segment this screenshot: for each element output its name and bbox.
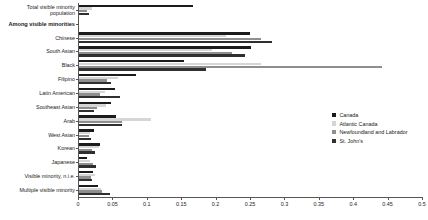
category-row: Multiple visible minority: [78, 183, 422, 197]
x-tick: [216, 197, 217, 200]
x-tick: [181, 197, 182, 200]
bar: [79, 165, 96, 167]
x-tick-label: 0.5: [418, 201, 426, 207]
category-tick: [76, 121, 78, 122]
x-tick: [388, 197, 389, 200]
bar: [79, 41, 272, 43]
x-tick-label: 0: [77, 201, 80, 207]
bar-group: [79, 3, 422, 17]
x-tick-label: 0.25: [245, 201, 256, 207]
category-tick: [76, 24, 78, 25]
legend-item[interactable]: Newfoundland and Labrador: [332, 129, 407, 135]
category-label: Korean: [58, 145, 75, 151]
category-label: South Asian: [46, 48, 75, 54]
grouped-bar-chart: Total visible minority populationAmong v…: [0, 0, 428, 220]
category-tick: [76, 79, 78, 80]
x-tick: [319, 197, 320, 200]
legend-label: St. John's: [339, 138, 363, 144]
bar-group: [79, 169, 422, 183]
x-tick-label: 0.05: [107, 201, 118, 207]
category-label: Among visible minorities: [8, 21, 75, 27]
bar-group: [79, 17, 422, 31]
bar-group: [79, 31, 422, 45]
bar-group: [79, 45, 422, 59]
category-row: Total visible minority population: [78, 3, 422, 17]
category-label: Black: [62, 62, 75, 68]
category-label: Filipino: [58, 76, 75, 82]
x-tick: [422, 197, 423, 200]
category-tick: [76, 10, 78, 11]
x-tick: [353, 197, 354, 200]
category-label: Chinese: [55, 35, 75, 41]
bar: [79, 68, 206, 70]
category-label: Multiple visible minority: [20, 187, 75, 193]
x-tick-label: 0.35: [314, 201, 325, 207]
category-tick: [76, 190, 78, 191]
category-row: Black: [78, 58, 422, 72]
category-tick: [76, 162, 78, 163]
bar-group: [79, 72, 422, 86]
bar: [79, 82, 111, 84]
category-tick: [76, 107, 78, 108]
bar: [79, 5, 193, 7]
category-label: Latin American: [39, 90, 75, 96]
category-label: Southeast Asian: [36, 104, 75, 110]
bar-group: [79, 58, 422, 72]
plot-area: Total visible minority populationAmong v…: [78, 3, 422, 197]
bar-group: [79, 155, 422, 169]
x-tick-label: 0.1: [143, 201, 151, 207]
x-tick: [284, 197, 285, 200]
legend-swatch-icon: [332, 113, 336, 117]
category-tick: [76, 148, 78, 149]
legend-label: Atlantic Canada: [339, 121, 377, 127]
legend-swatch-icon: [332, 130, 336, 134]
bar: [79, 151, 95, 153]
bar: [79, 110, 94, 112]
x-tick-label: 0.3: [281, 201, 289, 207]
chart-legend: CanadaAtlantic CanadaNewfoundland and La…: [332, 112, 407, 146]
category-tick: [76, 51, 78, 52]
x-tick-label: 0.4: [349, 201, 357, 207]
category-row: Chinese: [78, 31, 422, 45]
bar: [79, 96, 120, 98]
category-tick: [76, 65, 78, 66]
category-row: South Asian: [78, 45, 422, 59]
category-label: Visible minority, n.i.e.: [25, 173, 75, 179]
legend-item[interactable]: Canada: [332, 112, 407, 118]
x-tick-label: 0.45: [382, 201, 393, 207]
legend-item[interactable]: Atlantic Canada: [332, 121, 407, 127]
bar-group: [79, 86, 422, 100]
x-tick: [147, 197, 148, 200]
x-tick-label: 0.15: [176, 201, 187, 207]
legend-swatch-icon: [332, 121, 336, 125]
category-label: Japanese: [52, 159, 75, 165]
category-row: Among visible minorities: [78, 17, 422, 31]
category-row: Japanese: [78, 155, 422, 169]
x-tick: [78, 197, 79, 200]
category-label: Arab: [64, 118, 75, 124]
bar-group: [79, 183, 422, 197]
category-label: Total visible minority population: [9, 4, 75, 16]
x-tick-label: 0.2: [212, 201, 220, 207]
bar: [79, 54, 245, 56]
x-tick: [112, 197, 113, 200]
category-row: Visible minority, n.i.e.: [78, 169, 422, 183]
bar: [79, 179, 92, 181]
bar: [79, 138, 91, 140]
category-tick: [76, 38, 78, 39]
category-tick: [76, 93, 78, 94]
category-row: Filipino: [78, 72, 422, 86]
legend-swatch-icon: [332, 139, 336, 143]
legend-item[interactable]: St. John's: [332, 138, 407, 144]
bar: [79, 13, 89, 15]
category-tick: [76, 135, 78, 136]
bar: [79, 193, 110, 195]
category-row: Latin American: [78, 86, 422, 100]
bar: [79, 124, 122, 126]
x-tick: [250, 197, 251, 200]
category-label: West Asian: [48, 132, 75, 138]
legend-label: Canada: [339, 112, 358, 118]
legend-label: Newfoundland and Labrador: [339, 129, 407, 135]
category-tick: [76, 176, 78, 177]
